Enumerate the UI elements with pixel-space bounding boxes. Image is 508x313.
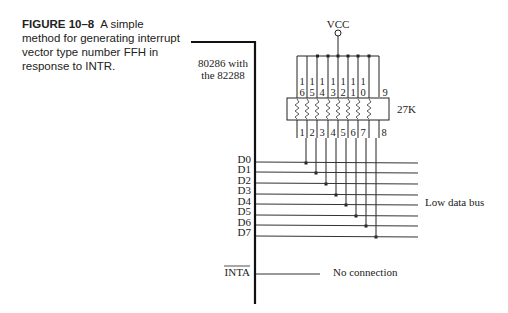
svg-text:6: 6 <box>299 87 304 98</box>
bottom-pin-numbers: 1 2 3 4 5 6 7 8 <box>299 127 386 138</box>
chip-label-line2: the 82288 <box>201 69 245 81</box>
top-pin-numbers: 16 15 14 13 12 11 10 9 <box>299 76 387 98</box>
bus-label: Low data bus <box>425 196 484 208</box>
svg-text:0: 0 <box>360 87 365 98</box>
svg-text:3: 3 <box>330 87 335 98</box>
pin-d7: D7 <box>238 226 252 238</box>
resistor-pack <box>287 98 389 120</box>
chip-label-line1: 80286 with <box>198 57 248 69</box>
vcc-terminal-icon <box>335 30 341 36</box>
svg-text:8: 8 <box>381 127 386 138</box>
svg-text:1: 1 <box>350 76 355 87</box>
data-pin-labels: D0 D1 D2 D3 D4 D5 D6 D7 <box>238 153 252 238</box>
svg-text:1: 1 <box>350 87 355 98</box>
svg-text:1: 1 <box>309 76 314 87</box>
vcc-label: VCC <box>327 18 350 30</box>
svg-text:4: 4 <box>319 87 325 98</box>
data-bus-lines <box>256 162 418 237</box>
pin-inta: INTA <box>225 266 250 278</box>
svg-text:4: 4 <box>330 127 336 138</box>
svg-text:1: 1 <box>360 76 365 87</box>
circuit-diagram: 80286 with the 82288 VCC 16 15 14 13 12 … <box>0 0 508 313</box>
svg-text:1: 1 <box>299 76 304 87</box>
svg-text:2: 2 <box>309 127 314 138</box>
svg-text:1: 1 <box>319 76 324 87</box>
svg-text:9: 9 <box>382 87 387 98</box>
svg-text:3: 3 <box>319 127 324 138</box>
svg-text:2: 2 <box>340 87 345 98</box>
svg-text:1: 1 <box>330 76 335 87</box>
svg-text:1: 1 <box>299 127 304 138</box>
svg-text:7: 7 <box>360 127 365 138</box>
svg-text:5: 5 <box>309 87 314 98</box>
pullup-connections <box>305 138 378 239</box>
svg-text:5: 5 <box>340 127 345 138</box>
no-connection-label: No connection <box>333 266 398 278</box>
svg-text:6: 6 <box>350 127 355 138</box>
svg-text:1: 1 <box>340 76 345 87</box>
resistor-value: 27K <box>397 103 416 115</box>
